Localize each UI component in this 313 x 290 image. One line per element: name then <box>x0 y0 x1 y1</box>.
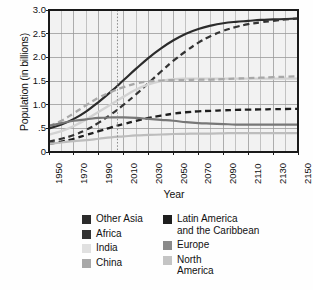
legend-entry-label: Europe <box>177 239 209 251</box>
legend-entry[interactable]: Other Asia <box>82 213 143 225</box>
x-tick-label: 2150 <box>302 163 313 184</box>
legend-swatch-icon <box>163 215 172 224</box>
legend-column-left: Other AsiaAfricaIndiaChina <box>82 213 143 271</box>
x-tick-label: 2130 <box>277 163 288 184</box>
legend-entry[interactable]: India <box>82 242 143 254</box>
x-tick-label: 2030 <box>153 163 164 184</box>
legend-swatch-icon <box>82 244 91 253</box>
legend-entry-label: Other Asia <box>96 213 143 225</box>
x-tick-label: 2050 <box>178 163 189 184</box>
x-tick-label: 1990 <box>103 163 114 184</box>
x-tick-label: 2070 <box>202 163 213 184</box>
legend-entry[interactable]: North America <box>163 254 259 277</box>
legend-entry[interactable]: Europe <box>163 239 259 251</box>
population-projection-figure: 0.51.01.52.02.53.0 195019701990201020302… <box>0 0 313 290</box>
x-tick-label: 1970 <box>78 163 89 184</box>
legend-entry-label: Africa <box>96 228 122 240</box>
x-tick-label: 2110 <box>252 164 263 184</box>
chart-plot-region: 0.51.01.52.02.53.0 195019701990201020302… <box>0 0 313 205</box>
legend-entry[interactable]: China <box>82 257 143 269</box>
y-axis-title: Population (in billions) <box>18 17 30 147</box>
legend-swatch-icon <box>82 215 91 224</box>
legend-swatch-icon <box>82 230 91 239</box>
x-tick-label: 2090 <box>227 163 238 184</box>
legend-entry-label: Latin America and the Caribbean <box>177 213 259 236</box>
x-axis-tick-labels: 1950197019902010203020502070209021102130… <box>0 0 313 205</box>
legend-entry[interactable]: Latin America and the Caribbean <box>163 213 259 236</box>
legend-entry-label: North America <box>177 254 214 277</box>
legend-swatch-icon <box>163 241 172 250</box>
chart-legend: Other AsiaAfricaIndiaChina Latin America… <box>0 205 313 290</box>
legend-entry-label: India <box>96 242 118 254</box>
x-tick-label: 2010 <box>128 163 139 184</box>
legend-swatch-icon <box>82 259 91 268</box>
x-axis-title: Year <box>49 188 299 200</box>
legend-entry-label: China <box>96 257 122 269</box>
x-tick-label: 1950 <box>53 163 64 184</box>
legend-entry[interactable]: Africa <box>82 228 143 240</box>
legend-swatch-icon <box>163 256 172 265</box>
legend-column-right: Latin America and the CaribbeanEuropeNor… <box>163 213 259 280</box>
